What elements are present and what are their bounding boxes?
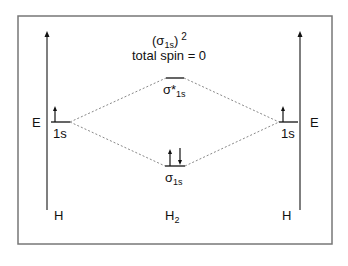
left-energy-label: E — [32, 116, 41, 129]
right-energy-label: E — [310, 116, 319, 129]
left-atom-label: H — [54, 209, 63, 222]
left-orbital-label: 1s — [53, 127, 67, 140]
bonding-electron-down-head-icon — [178, 160, 182, 165]
bonding-electron-up-head-icon — [168, 149, 172, 154]
electron-configuration: (σ1s)2 — [152, 34, 187, 47]
right-electron-up-head-icon — [281, 106, 285, 111]
right-axis-arrowhead-icon — [298, 31, 303, 37]
bonding-label: σ1s — [165, 171, 183, 184]
right-atom-label: H — [282, 209, 291, 222]
left-electron-up-head-icon — [53, 106, 57, 111]
molecule-label: H2 — [165, 209, 179, 222]
antibonding-label: σ*1s — [163, 83, 186, 96]
total-spin-label: total spin = 0 — [132, 49, 206, 62]
left-axis-arrowhead-icon — [45, 31, 50, 37]
right-orbital-label: 1s — [281, 127, 295, 140]
